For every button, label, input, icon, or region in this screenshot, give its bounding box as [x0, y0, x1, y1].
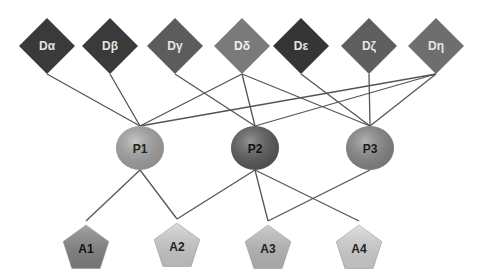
- circle-node-p3[interactable]: P3: [346, 126, 394, 170]
- nodes-layer: DαDβDγDδDεDζDηP1P2P3A1A2A3A4: [19, 18, 464, 268]
- diamond-node-de[interactable]: Dε: [273, 18, 329, 74]
- diamond-node-da[interactable]: Dα: [19, 18, 75, 74]
- diamond-node-dg[interactable]: Dγ: [147, 18, 203, 74]
- pentagon-node-a3[interactable]: A3: [245, 225, 291, 268]
- node-label: P3: [363, 142, 378, 156]
- pentagon-node-a2[interactable]: A2: [154, 223, 200, 266]
- diamond-node-dh[interactable]: Dη: [408, 18, 464, 74]
- edge-dd-p3: [242, 74, 370, 126]
- edge-da-p1: [47, 74, 140, 126]
- edge-de-p3: [301, 74, 370, 126]
- node-label: A1: [78, 242, 94, 256]
- node-label: Dη: [428, 39, 444, 53]
- edge-dz-p3: [369, 74, 370, 126]
- edge-p1-a2: [140, 170, 177, 219]
- circle-node-p2[interactable]: P2: [231, 126, 279, 170]
- node-label: Dγ: [167, 39, 183, 53]
- network-diagram: DαDβDγDδDεDζDηP1P2P3A1A2A3A4: [0, 0, 484, 280]
- diamond-node-dz[interactable]: Dζ: [341, 18, 397, 74]
- node-label: A4: [351, 242, 367, 256]
- node-label: P1: [133, 142, 148, 156]
- edge-dh-p3: [370, 74, 436, 126]
- circle-node-p1[interactable]: P1: [116, 126, 164, 170]
- edge-dd-p1: [140, 74, 242, 126]
- edge-p3-a3: [268, 170, 370, 221]
- diagram-canvas: DαDβDγDδDεDζDηP1P2P3A1A2A3A4: [0, 0, 484, 280]
- diamond-node-db[interactable]: Dβ: [82, 18, 138, 74]
- node-label: P2: [248, 142, 263, 156]
- edge-p2-a2: [177, 170, 255, 219]
- edge-p2-a3: [255, 170, 268, 221]
- node-label: A3: [260, 242, 276, 256]
- diamond-node-dd[interactable]: Dδ: [214, 18, 270, 74]
- edge-dh-p2: [255, 74, 436, 126]
- node-label: A2: [169, 240, 185, 254]
- edge-dh-p1: [140, 74, 436, 126]
- pentagon-node-a4[interactable]: A4: [336, 225, 382, 268]
- edge-p2-a4: [255, 170, 359, 221]
- node-label: Dα: [39, 39, 56, 53]
- pentagon-node-a1[interactable]: A1: [63, 225, 109, 268]
- node-label: Dβ: [102, 39, 118, 53]
- node-label: Dε: [294, 39, 309, 53]
- node-label: Dδ: [234, 39, 250, 53]
- node-label: Dζ: [362, 39, 377, 53]
- edge-p1-a1: [86, 170, 140, 221]
